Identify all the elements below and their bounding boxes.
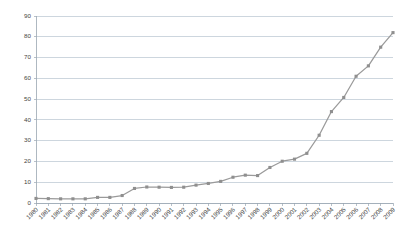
data-point-marker [391, 31, 394, 34]
x-tick-label: 1994 [197, 205, 212, 220]
y-tick-label: 0 [28, 199, 32, 206]
data-point-marker [379, 46, 382, 49]
data-point-marker [158, 186, 161, 189]
data-point-marker [170, 186, 173, 189]
y-axis-tick-labels: 0102030405060708090 [24, 12, 31, 206]
x-tick-label: 1996 [221, 205, 236, 220]
data-point-marker [367, 64, 370, 67]
x-tick-label: 2003 [308, 205, 323, 220]
data-point-marker [305, 152, 308, 155]
data-point-marker [47, 197, 50, 200]
x-tick-label: 1991 [160, 205, 175, 220]
x-tick-label: 1989 [135, 205, 150, 220]
x-tick-label: 2000 [271, 205, 286, 220]
x-tick-label: 2005 [332, 205, 347, 220]
x-tick-label: 2007 [357, 205, 372, 220]
x-axis-tick-labels: 1980198119821983198419851986198719881989… [25, 205, 397, 220]
x-tick-label: 1987 [111, 205, 126, 220]
data-point-marker [342, 96, 345, 99]
data-point-marker [281, 160, 284, 163]
x-tick-label: 2006 [345, 205, 360, 220]
chart-canvas: 0102030405060708090 19801981198219831984… [0, 0, 415, 235]
x-tick-label: 2008 [369, 205, 384, 220]
data-point-marker [71, 197, 74, 200]
x-tick-label: 2009 [382, 205, 397, 220]
data-point-marker [108, 196, 111, 199]
data-point-marker [84, 197, 87, 200]
x-tick-label: 1990 [148, 205, 163, 220]
x-tick-label: 2001 [283, 205, 298, 220]
x-tick-label: 1988 [123, 205, 138, 220]
x-tick-label: 1995 [209, 205, 224, 220]
data-point-marker [244, 174, 247, 177]
axis-lines [36, 16, 393, 203]
data-point-marker [219, 180, 222, 183]
data-point-marker [330, 110, 333, 113]
data-point-marker [133, 187, 136, 190]
x-tick-label: 2002 [295, 205, 310, 220]
y-tick-label: 90 [24, 12, 31, 19]
y-tick-label: 20 [24, 157, 31, 164]
data-point-marker [318, 134, 321, 137]
y-tick-label: 70 [24, 53, 31, 60]
x-tick-label: 1992 [172, 205, 187, 220]
y-tick-label: 40 [24, 116, 31, 123]
data-point-marker [121, 194, 124, 197]
x-tick-label: 1985 [86, 205, 101, 220]
x-tick-label: 1999 [258, 205, 273, 220]
data-point-marker [59, 197, 62, 200]
x-tick-label: 1998 [246, 205, 261, 220]
data-point-marker [96, 196, 99, 199]
x-tick-label: 1981 [37, 205, 52, 220]
data-markers [34, 31, 394, 200]
data-point-marker [268, 166, 271, 169]
data-point-marker [355, 75, 358, 78]
line-chart: 0102030405060708090 19801981198219831984… [0, 0, 415, 235]
data-point-marker [145, 185, 148, 188]
x-tick-label: 1997 [234, 205, 249, 220]
x-tick-label: 1980 [25, 205, 40, 220]
data-point-marker [231, 176, 234, 179]
data-point-marker [207, 182, 210, 185]
y-tick-label: 10 [24, 178, 31, 185]
y-tick-label: 30 [24, 136, 31, 143]
y-tick-label: 50 [24, 95, 31, 102]
y-tick-label: 80 [24, 32, 31, 39]
gridlines [36, 16, 393, 203]
x-tick-label: 2004 [320, 205, 335, 220]
x-tick-label: 1982 [49, 205, 64, 220]
x-tick-label: 1984 [74, 205, 89, 220]
data-point-marker [293, 158, 296, 161]
data-point-marker [256, 174, 259, 177]
data-point-marker [182, 186, 185, 189]
x-tick-label: 1986 [98, 205, 113, 220]
data-point-marker [194, 184, 197, 187]
data-point-marker [34, 197, 37, 200]
y-tick-label: 60 [24, 74, 31, 81]
x-tick-label: 1993 [185, 205, 200, 220]
x-tick-label: 1983 [61, 205, 76, 220]
